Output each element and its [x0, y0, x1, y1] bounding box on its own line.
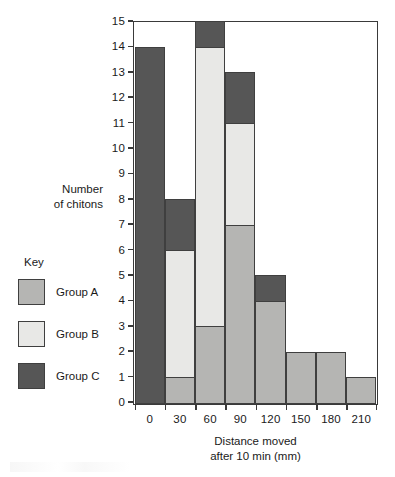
y-tick-mark — [128, 71, 133, 73]
y-tick-label: 7 — [118, 216, 125, 232]
legend-item[interactable]: Group A — [18, 278, 128, 306]
legend-item[interactable]: Group C — [18, 362, 128, 390]
bar-column[interactable] — [346, 23, 376, 404]
bar-segment[interactable] — [286, 352, 316, 404]
bar-segment[interactable] — [165, 250, 195, 378]
y-tick-mark — [128, 198, 133, 200]
bar-segment[interactable] — [225, 72, 255, 124]
bar-segment[interactable] — [195, 21, 225, 48]
chart-figure: 1514131211109876543210 Number of chitons… — [0, 0, 395, 477]
bar-column[interactable] — [165, 23, 195, 404]
y-tick-mark — [128, 223, 133, 225]
x-tick-mark — [165, 405, 167, 410]
bar-column[interactable] — [286, 23, 316, 404]
x-tick-label: 30 — [173, 412, 186, 426]
y-tick-mark — [128, 46, 133, 48]
y-tick-label: 9 — [118, 165, 125, 181]
page-artifact — [10, 462, 130, 472]
y-tick-mark — [128, 274, 133, 276]
x-tick-label: 60 — [204, 412, 217, 426]
bar-segment[interactable] — [165, 199, 195, 251]
legend-item[interactable]: Group B — [18, 320, 128, 348]
bar-segment[interactable] — [165, 377, 195, 404]
x-tick-mark — [195, 405, 197, 410]
bar-segment[interactable] — [225, 123, 255, 226]
bar-column[interactable] — [316, 23, 346, 404]
legend-label: Group C — [56, 369, 99, 383]
legend-swatch — [18, 321, 45, 347]
x-axis-title-line-2: after 10 min (mm) — [133, 449, 378, 464]
x-axis-title-line-1: Distance moved — [133, 434, 378, 449]
y-tick-mark — [128, 350, 133, 352]
y-axis-title: Number of chitons — [10, 182, 103, 212]
legend-title: Key — [24, 255, 128, 269]
y-axis-title-line-2: of chitons — [10, 197, 103, 212]
y-tick-mark — [128, 376, 133, 378]
y-tick-mark — [128, 300, 133, 302]
bar-segment[interactable] — [195, 47, 225, 328]
legend-items: Group AGroup BGroup C — [18, 278, 128, 390]
legend-swatch — [18, 363, 45, 389]
x-tick-label: 150 — [291, 412, 311, 426]
legend-label: Group B — [56, 327, 99, 341]
x-tick-label: 180 — [321, 412, 341, 426]
y-axis-title-line-1: Number — [10, 182, 103, 197]
bar-segment[interactable] — [195, 326, 225, 404]
x-tick-mark — [256, 405, 258, 410]
y-tick-label: 14 — [112, 38, 125, 54]
bars-layer — [135, 23, 377, 404]
y-tick-mark — [128, 325, 133, 327]
y-tick-mark — [128, 249, 133, 251]
x-tick-label: 0 — [146, 412, 153, 426]
bar-segment[interactable] — [346, 377, 376, 404]
bar-column[interactable] — [135, 23, 165, 404]
y-tick-mark — [128, 20, 133, 22]
x-axis-title: Distance moved after 10 min (mm) — [133, 434, 378, 464]
bar-column[interactable] — [225, 23, 255, 404]
y-tick-label: 12 — [112, 89, 125, 105]
y-tick-label: 15 — [112, 13, 125, 29]
bar-segment[interactable] — [135, 47, 165, 404]
y-tick-label: 11 — [113, 115, 125, 131]
x-tick-mark — [376, 405, 378, 410]
y-tick-mark — [128, 147, 133, 149]
x-tick-label: 120 — [261, 412, 281, 426]
bar-column[interactable] — [255, 23, 285, 404]
x-tick-label: 90 — [234, 412, 247, 426]
bar-segment[interactable] — [316, 352, 346, 404]
x-tick-mark — [316, 405, 318, 410]
legend-swatch — [18, 279, 45, 305]
bar-segment[interactable] — [225, 225, 255, 404]
x-tick-mark — [346, 405, 348, 410]
x-tick-mark — [135, 405, 137, 410]
bar-segment[interactable] — [255, 301, 285, 404]
bar-segment[interactable] — [255, 275, 285, 302]
y-tick-label: 13 — [112, 64, 125, 80]
y-tick-label: 8 — [118, 191, 125, 207]
x-tick-label: 210 — [351, 412, 371, 426]
x-tick-mark — [286, 405, 288, 410]
x-axis: 0306090120150180210 — [133, 405, 378, 431]
x-tick-mark — [225, 405, 227, 410]
y-tick-mark — [128, 96, 133, 98]
y-tick-mark — [128, 401, 133, 403]
y-tick-mark — [128, 173, 133, 175]
legend-label: Group A — [56, 285, 98, 299]
bar-column[interactable] — [195, 23, 225, 404]
y-tick-label: 10 — [112, 140, 125, 156]
y-tick-mark — [128, 122, 133, 124]
legend: Key Group AGroup BGroup C — [18, 255, 128, 404]
